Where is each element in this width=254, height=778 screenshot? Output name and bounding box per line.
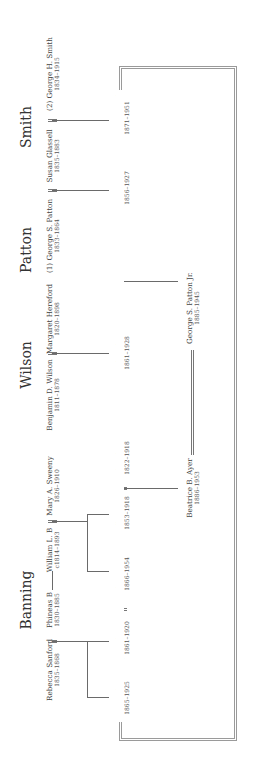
person-dates: 1811–1878 bbox=[54, 359, 60, 430]
person-george-h-smith: (2) George H. Smith 1834–1915 bbox=[46, 37, 60, 111]
person-dates: c1814–1893 bbox=[54, 528, 60, 572]
drop-ellen bbox=[87, 514, 109, 515]
person-dates: 1826–1910 bbox=[54, 456, 60, 515]
person-dates: 1830–1885 bbox=[54, 592, 60, 628]
drop-hancock bbox=[87, 697, 109, 698]
descent-line-smith bbox=[52, 120, 109, 121]
descent-line-banning-2 bbox=[52, 521, 87, 522]
person-george-s-patton-1: (1) George S. Patton 1833–1864 bbox=[46, 199, 60, 273]
person-mary-a-sweeny: Mary A. Sweeny 1826–1910 bbox=[46, 456, 60, 515]
person-rebecca-sanford: Rebecca Sanford 1835–1868 bbox=[46, 639, 60, 701]
person-dates: 1835–1883 bbox=[54, 130, 60, 183]
family-header-banning: Banning bbox=[18, 570, 34, 629]
family-tree-diagram: Banning Wilson Patton Smith Rebecca Sanf… bbox=[0, 0, 254, 778]
person-margaret-hereford: Margaret Hereford 1820–1898 bbox=[46, 284, 60, 354]
person-dates: 1835–1868 bbox=[54, 639, 60, 701]
drop-katharine bbox=[87, 571, 109, 572]
descent-line-wilson bbox=[52, 353, 109, 354]
descent-line-banning-1 bbox=[52, 641, 87, 642]
frame-gap bbox=[116, 90, 124, 722]
family-header-patton: Patton bbox=[18, 227, 34, 273]
person-dates: 1834–1915 bbox=[54, 37, 60, 111]
person-susan-glassell: Susan Glassell 1835–1883 bbox=[46, 130, 60, 183]
sibling-bar-katharine-ellen bbox=[87, 515, 88, 572]
descent-line-patton bbox=[52, 190, 109, 191]
decorative-frame bbox=[119, 66, 237, 741]
link-line-phineas-william bbox=[52, 571, 53, 590]
person-william-l-b: William L. B c1814–1893 bbox=[46, 528, 60, 572]
sibling-bar-hancock-joseph bbox=[87, 642, 88, 698]
person-dates: 1820–1898 bbox=[54, 284, 60, 354]
person-benjamin-d-wilson: Benjamin D. Wilson 1811–1878 bbox=[46, 359, 60, 430]
person-dates: 1833–1864 bbox=[54, 199, 60, 273]
family-header-wilson: Wilson bbox=[18, 341, 34, 389]
family-header-smith: Smith bbox=[18, 106, 34, 148]
drop-joseph bbox=[87, 641, 109, 642]
person-phineas-b: Phineas B 1830–1885 bbox=[46, 592, 60, 628]
